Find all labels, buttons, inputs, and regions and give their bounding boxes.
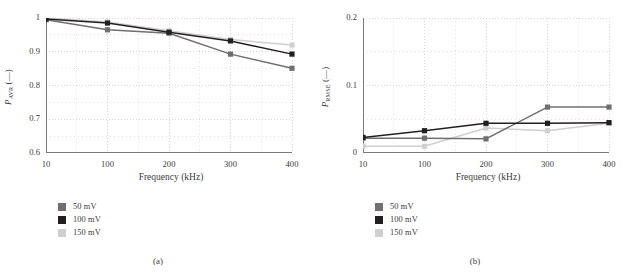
chart-svg-b xyxy=(363,18,613,153)
panel-a: PAVR (—) 0.60.70.80.91 10100200300400 Fr… xyxy=(0,0,316,278)
y-tick-label: 0.6 xyxy=(4,147,40,157)
x-tick-label: 10 xyxy=(343,159,383,169)
legend-item: 100 mV xyxy=(375,213,418,226)
y-axis-label-b-symbol: P xyxy=(320,102,330,108)
legend-label: 150 mV xyxy=(390,228,418,237)
x-axis-label-a: Frequency (kHz) xyxy=(46,172,296,182)
x-tick-label: 200 xyxy=(149,159,189,169)
legend-b: 50 mV100 mV150 mV xyxy=(375,200,418,239)
legend-a: 50 mV100 mV150 mV xyxy=(58,200,101,239)
legend-label: 50 mV xyxy=(390,202,414,211)
legend-item: 150 mV xyxy=(375,226,418,239)
legend-item: 100 mV xyxy=(58,213,101,226)
y-tick-label: 0.2 xyxy=(321,12,357,22)
y-tick-label: 0.9 xyxy=(4,46,40,56)
y-tick-label: 0.1 xyxy=(321,80,357,90)
legend-swatch xyxy=(58,229,66,237)
legend-swatch xyxy=(58,203,66,211)
x-tick-label: 300 xyxy=(528,159,568,169)
x-tick-label: 10 xyxy=(26,159,66,169)
panel-b: PRMSE (—) 00.10.2 10100200300400 Frequen… xyxy=(317,0,633,278)
x-tick-label: 400 xyxy=(272,159,312,169)
legend-swatch xyxy=(58,216,66,224)
legend-item: 50 mV xyxy=(375,200,418,213)
legend-label: 100 mV xyxy=(390,215,418,224)
y-tick-label: 0.7 xyxy=(4,113,40,123)
legend-swatch xyxy=(375,216,383,224)
x-tick-label: 100 xyxy=(88,159,128,169)
x-tick-label: 300 xyxy=(211,159,251,169)
subfigure-caption-a: (a) xyxy=(0,256,316,266)
y-tick-label: 1 xyxy=(4,12,40,22)
legend-swatch xyxy=(375,203,383,211)
x-tick-label: 200 xyxy=(466,159,506,169)
figure-container: PAVR (—) 0.60.70.80.91 10100200300400 Fr… xyxy=(0,0,633,278)
legend-label: 50 mV xyxy=(73,202,97,211)
legend-item: 50 mV xyxy=(58,200,101,213)
chart-svg-a xyxy=(46,18,296,153)
x-axis-label-b: Frequency (kHz) xyxy=(363,172,613,182)
legend-item: 150 mV xyxy=(58,226,101,239)
x-tick-label: 400 xyxy=(589,159,629,169)
legend-swatch xyxy=(375,229,383,237)
plot-area-a xyxy=(46,18,296,153)
x-tick-label: 100 xyxy=(405,159,445,169)
legend-label: 100 mV xyxy=(73,215,101,224)
y-tick-label: 0 xyxy=(321,147,357,157)
subfigure-caption-b: (b) xyxy=(317,256,633,266)
y-tick-label: 0.8 xyxy=(4,80,40,90)
legend-label: 150 mV xyxy=(73,228,101,237)
y-axis-label-a-symbol: P xyxy=(3,99,13,105)
plot-area-b xyxy=(363,18,613,153)
